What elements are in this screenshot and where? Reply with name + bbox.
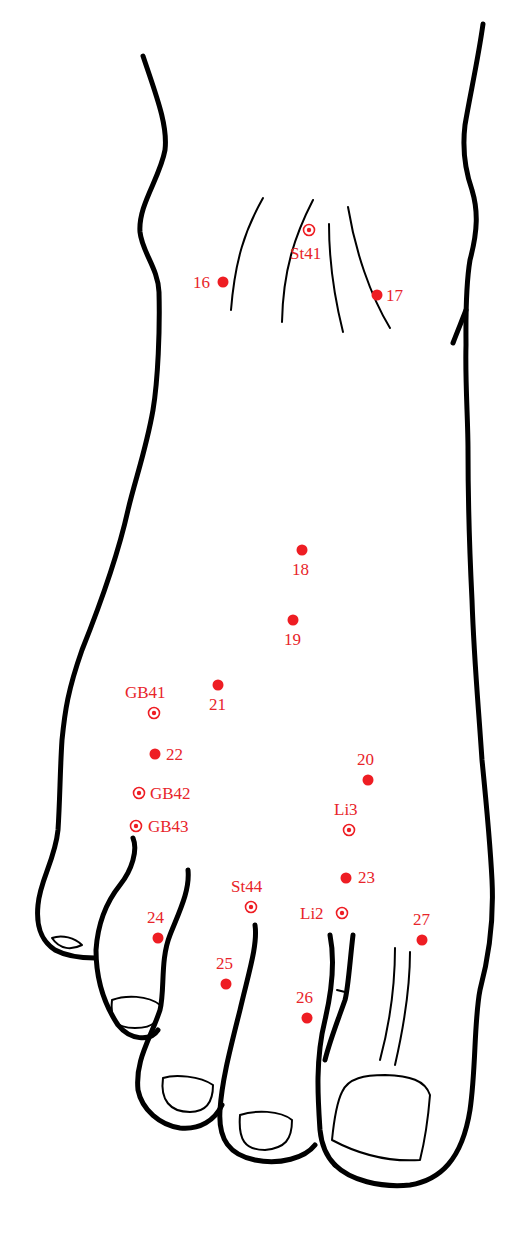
acupoint-li3: Li3 [334, 800, 358, 836]
point-label: 23 [358, 868, 375, 887]
point-label: St41 [290, 244, 321, 263]
tendon-line-4 [348, 207, 390, 328]
point-label: 16 [193, 273, 210, 292]
point-label: 27 [413, 910, 431, 929]
point-label: 17 [386, 286, 404, 305]
point-label: 18 [292, 560, 309, 579]
ring-point-core-icon [307, 228, 311, 232]
point-label: 25 [216, 954, 233, 973]
point-label: GB41 [125, 683, 166, 702]
acupoint-li2: Li2 [300, 904, 348, 923]
point-label: 24 [147, 908, 165, 927]
ring-point-core-icon [347, 828, 351, 832]
acupuncture-points: St411617181921GB412220GB42Li3GB4323St44L… [125, 225, 431, 1024]
acupoint-20: 20 [357, 750, 374, 786]
acupoint-st44: St44 [231, 877, 263, 913]
dot-point-icon [341, 873, 352, 884]
ring-point-core-icon [134, 824, 138, 828]
toe-gap-bridge [337, 990, 345, 992]
foot-outline [38, 24, 493, 1186]
foot-acupoint-diagram: St411617181921GB412220GB42Li3GB4323St44L… [0, 0, 521, 1234]
middle-toe-nail-left [162, 1076, 213, 1112]
dot-point-icon [372, 290, 383, 301]
acupoint-18: 18 [292, 545, 309, 580]
dot-point-icon [417, 935, 428, 946]
dot-point-icon [363, 775, 374, 786]
acupoint-16: 16 [193, 273, 229, 292]
big-toe-nail [332, 1075, 430, 1160]
dot-point-icon [150, 749, 161, 760]
point-label: Li2 [300, 904, 324, 923]
acupoint-gb41: GB41 [125, 683, 166, 719]
third-toe-nail [240, 1112, 292, 1150]
point-label: St44 [231, 877, 263, 896]
little-toe-nail [52, 936, 82, 948]
left-foot-edge [38, 56, 166, 958]
ring-point-core-icon [152, 711, 156, 715]
acupoint-19: 19 [284, 615, 301, 650]
third-toe [220, 925, 315, 1162]
dot-point-icon [297, 545, 308, 556]
acupoint-st41: St41 [290, 225, 321, 264]
acupoint-23: 23 [341, 868, 376, 887]
acupoint-26: 26 [296, 988, 313, 1024]
dot-point-icon [302, 1013, 313, 1024]
point-label: 21 [209, 695, 226, 714]
point-label: 22 [166, 745, 183, 764]
dot-point-icon [213, 680, 224, 691]
point-label: 20 [357, 750, 374, 769]
acupoint-21: 21 [209, 680, 226, 715]
point-label: 19 [284, 630, 301, 649]
dot-point-icon [153, 933, 164, 944]
tendon-line-3 [329, 224, 343, 332]
ring-point-core-icon [340, 911, 344, 915]
point-label: GB43 [148, 817, 189, 836]
acupoint-25: 25 [216, 954, 233, 990]
point-label: GB42 [150, 784, 191, 803]
acupoint-gb42: GB42 [134, 784, 191, 803]
acupoint-24: 24 [147, 908, 165, 944]
point-label: Li3 [334, 800, 358, 819]
acupoint-gb43: GB43 [131, 817, 189, 836]
dot-point-icon [288, 615, 299, 626]
ring-point-core-icon [249, 905, 253, 909]
big-toe-line-1 [380, 948, 395, 1060]
ring-point-core-icon [137, 791, 141, 795]
point-label: 26 [296, 988, 313, 1007]
big-toe-line-2 [395, 952, 410, 1065]
right-foot-edge [335, 24, 492, 1186]
acupoint-22: 22 [150, 745, 184, 764]
dot-point-icon [218, 277, 229, 288]
tendon-line-1 [231, 198, 263, 310]
little-toe [96, 838, 158, 1038]
dot-point-icon [221, 979, 232, 990]
acupoint-27: 27 [413, 910, 431, 946]
